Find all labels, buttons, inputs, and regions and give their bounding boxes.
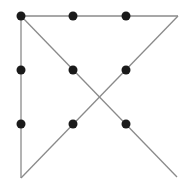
dot-2 <box>69 12 78 21</box>
line-segment-4 <box>21 16 177 177</box>
nine-dots-diagram <box>0 0 195 188</box>
diagram-canvas <box>0 0 195 188</box>
dot-5 <box>69 66 78 75</box>
dot-3 <box>122 12 131 21</box>
dot-4 <box>17 66 26 75</box>
dot-9 <box>122 120 131 129</box>
dot-6 <box>122 66 131 75</box>
dot-8 <box>69 120 78 129</box>
dot-7 <box>17 120 26 129</box>
dot-1 <box>17 12 26 21</box>
connecting-lines <box>21 16 178 178</box>
